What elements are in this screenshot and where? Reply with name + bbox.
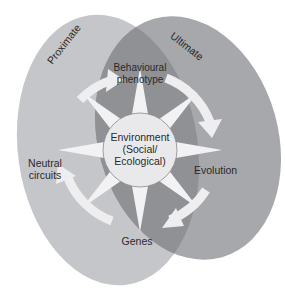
behavioural-phenotype-label: Behavioural phenotype (95, 62, 185, 86)
proximate-ultimate-diagram: Proximate Ultimate Environment (Social/ … (0, 0, 285, 304)
evolution-label: Evolution (194, 164, 237, 176)
genes-label: Genes (112, 235, 162, 247)
environment-label: Environment (Social/ Ecological) (104, 131, 176, 167)
neutral-circuits-label: Neutral circuits (22, 157, 68, 181)
